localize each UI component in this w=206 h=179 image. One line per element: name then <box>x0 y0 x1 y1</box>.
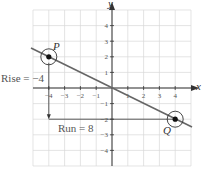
y-tick-label: 4 <box>105 22 109 30</box>
y-tick-label: 3 <box>105 38 109 46</box>
run-label: Run = 8 <box>58 122 94 134</box>
x-tick-label: 2 <box>142 92 146 100</box>
x-axis-label: x <box>196 80 201 92</box>
x-tick-label: −1 <box>92 92 100 100</box>
x-tick-label: −2 <box>77 92 85 100</box>
rise-label: Rise = −4 <box>1 72 44 84</box>
y-tick-label: −2 <box>101 116 109 124</box>
y-tick-label: 1 <box>105 69 109 77</box>
point-p-marker <box>46 54 51 59</box>
y-tick-label: −3 <box>101 131 109 139</box>
rise-arrowhead-icon <box>47 114 51 119</box>
y-tick-label: −4 <box>101 147 109 155</box>
coordinate-plane: −4−3−2−112344321−1−2−3−4 <box>0 0 206 179</box>
point-q-label: Q <box>163 124 171 136</box>
x-tick-label: 3 <box>158 92 162 100</box>
y-tick-label: 2 <box>105 53 109 61</box>
y-axis-label: y <box>108 0 113 9</box>
point-p-label: P <box>53 40 60 52</box>
x-tick-label: −3 <box>61 92 69 100</box>
y-tick-label: −1 <box>101 100 109 108</box>
point-q-marker <box>173 117 178 122</box>
x-tick-label: 4 <box>173 92 177 100</box>
